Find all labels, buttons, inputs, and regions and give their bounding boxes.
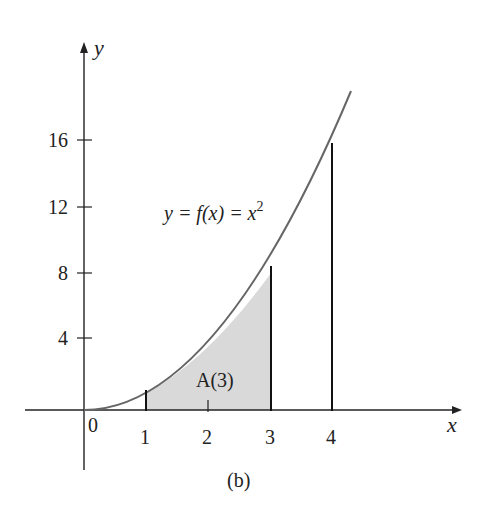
y-tick-label-12: 12 <box>48 196 68 218</box>
area-label: A(3) <box>196 369 234 392</box>
y-tick-label-16: 16 <box>48 129 68 151</box>
y-axis-arrow-icon <box>80 42 88 53</box>
y-tick-label-8: 8 <box>58 262 68 284</box>
x-axis-label: x <box>446 412 457 437</box>
figure-caption: (b) <box>227 469 250 492</box>
x-tick-label-4: 4 <box>326 426 336 448</box>
curve-label: y = f(x) = x2 <box>162 199 264 225</box>
origin-label: 0 <box>88 414 98 436</box>
x-tick-label-2: 2 <box>202 426 212 448</box>
x-tick-label-1: 1 <box>140 426 150 448</box>
figure-canvas: y x 0 1 2 3 4 4 8 12 16 y = f(x) = x2 A(… <box>0 0 482 527</box>
y-axis-label: y <box>92 35 104 60</box>
x-tick-label-3: 3 <box>265 426 275 448</box>
y-tick-label-4: 4 <box>58 327 68 349</box>
